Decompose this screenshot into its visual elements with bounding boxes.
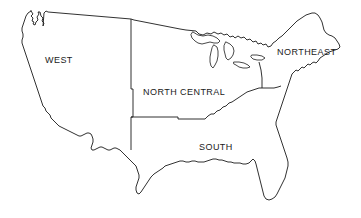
divider-northeast-south [262, 86, 281, 88]
lake-ontario-outline [251, 55, 265, 60]
region-label-northeast: NORTHEAST [277, 48, 336, 57]
us-map-graphic [0, 0, 361, 218]
divider-north-central-northeast [259, 62, 262, 88]
us-national-outline [22, 11, 340, 200]
divider-west-north-central [131, 19, 133, 150]
lake-michigan-outline [210, 45, 218, 68]
us-regions-map-figure: WEST NORTH CENTRAL NORTHEAST SOUTH [0, 0, 361, 218]
lake-huron-outline [224, 42, 234, 60]
region-label-north-central: NORTH CENTRAL [143, 88, 225, 97]
region-label-west: WEST [45, 56, 73, 65]
region-label-south: SOUTH [199, 143, 233, 152]
lake-erie-outline [234, 62, 250, 68]
